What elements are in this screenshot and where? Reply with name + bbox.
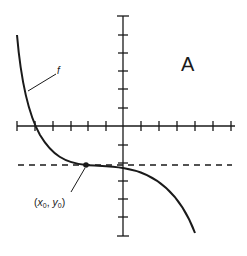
point-label-leader [71, 168, 85, 192]
f-label-leader [28, 74, 56, 91]
point-label: (x0, y0) [34, 196, 65, 209]
panel-label: A [181, 53, 195, 75]
point-marker [83, 162, 89, 168]
function-graph: A f (x0, y0) [0, 0, 247, 256]
function-label: f [57, 65, 61, 76]
